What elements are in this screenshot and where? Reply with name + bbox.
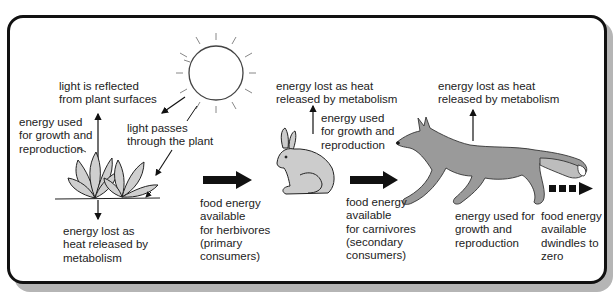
label-light-passes: light passes through the plant bbox=[127, 122, 213, 149]
label-food-dwindles: food energy available dwindles to zero bbox=[541, 210, 602, 263]
label-plant-growth: energy used for growth and reproduction bbox=[19, 116, 93, 156]
label-fox-growth: energy used for growth and reproduction bbox=[455, 210, 535, 250]
fox-icon bbox=[396, 117, 587, 204]
label-plant-heat: energy lost as heat released by metaboli… bbox=[63, 225, 148, 265]
arrow-herbivore-to-carnivore bbox=[350, 171, 398, 189]
label-food-herbivores: food energy available for herbivores (pr… bbox=[200, 197, 270, 263]
arrow-light-passes bbox=[156, 150, 172, 175]
pointer-light-passes bbox=[187, 106, 197, 121]
arrow-dwindles bbox=[549, 182, 593, 195]
label-rabbit-heat: energy lost as heat released by metaboli… bbox=[276, 80, 397, 107]
label-light-reflected: light is reflected from plant surfaces bbox=[59, 80, 157, 107]
label-food-carnivores: food energy available for carnivores (se… bbox=[346, 196, 416, 262]
arrow-plant-to-herbivore bbox=[203, 171, 252, 189]
plant-icon bbox=[55, 152, 160, 199]
label-rabbit-growth: energy used for growth and reproduction bbox=[321, 112, 395, 152]
arrow-light-reflected bbox=[162, 97, 185, 113]
sun-icon bbox=[176, 33, 256, 113]
label-fox-heat: energy lost as heat released by metaboli… bbox=[438, 80, 559, 107]
